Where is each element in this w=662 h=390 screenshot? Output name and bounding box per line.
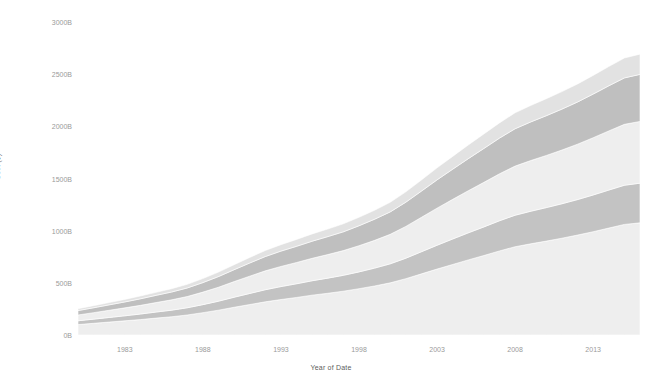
x-axis-tick-label: 1993: [273, 346, 289, 353]
stacked-area-chart: Cost ($) Year of Date 0B500B1000B1500B20…: [0, 0, 662, 390]
plot-area: [78, 22, 640, 335]
x-axis-tick-label: 1998: [351, 346, 367, 353]
x-axis-tick-label: 2008: [507, 346, 523, 353]
x-axis-tick-label: 2003: [429, 346, 445, 353]
area-series-group: [78, 22, 640, 335]
x-axis-tick-label: 1988: [195, 346, 211, 353]
x-axis-tick-label: 1983: [117, 346, 133, 353]
x-axis-tick-label: 2013: [585, 346, 601, 353]
